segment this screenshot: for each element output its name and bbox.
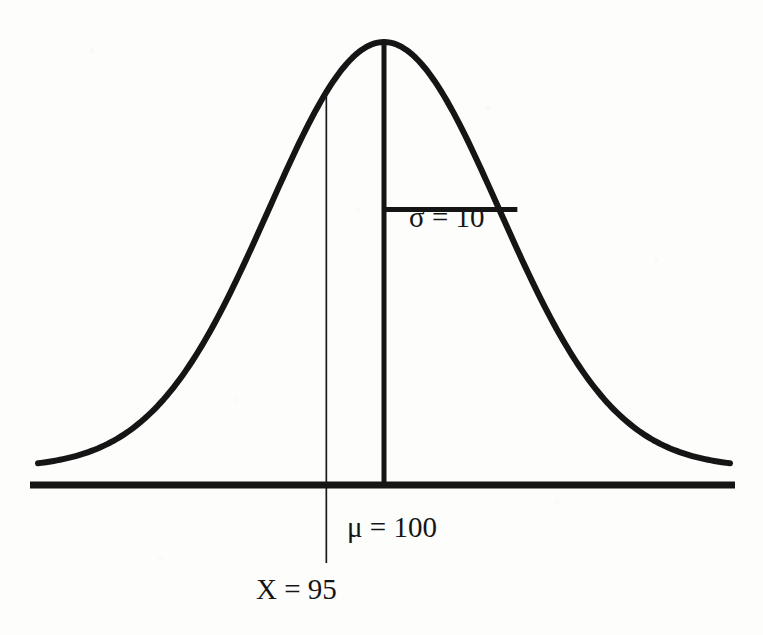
- mean-label: μ = 100: [347, 513, 437, 542]
- x-value-label: X = 95: [256, 575, 337, 604]
- sigma-label: σ = 10: [409, 203, 485, 232]
- normal-distribution-figure: σ = 10 μ = 100 X = 95: [0, 0, 763, 635]
